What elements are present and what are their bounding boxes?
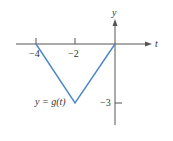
chart-canvas — [0, 0, 173, 141]
y-axis-label: y — [112, 8, 116, 18]
tick-label-neg4: −4 — [29, 49, 40, 59]
tick-label-neg3: −3 — [100, 98, 111, 108]
x-axis-arrow-icon — [145, 42, 152, 47]
y-axis-arrow-icon — [113, 19, 118, 26]
t-axis-label: t — [155, 39, 158, 49]
curve-label-fn: g(t) — [51, 96, 65, 107]
curve-label-lhs: y = — [35, 96, 51, 107]
curve-label: y = g(t) — [35, 97, 66, 107]
tick-label-neg2: −2 — [68, 49, 79, 59]
